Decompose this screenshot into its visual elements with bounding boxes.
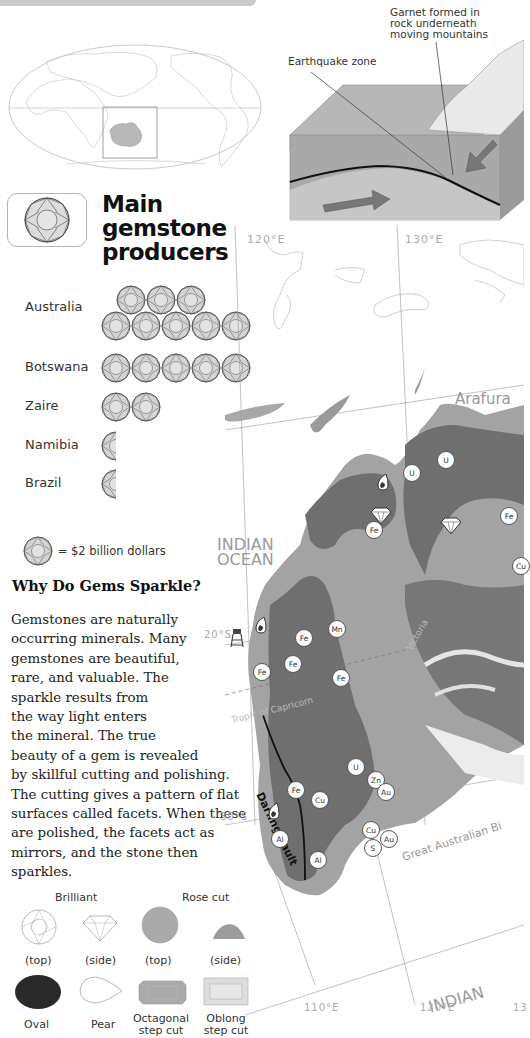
ocean-label-top: INDIAN OCEAN [217,537,274,567]
section-heading: Why Do Gems Sparkle? [12,577,201,594]
mineral-marker-iron: Fe [287,781,305,799]
country-label: Brazil [25,475,61,490]
brilliant-group-label: Brilliant [55,892,97,904]
earthquake-zone-label: Earthquake zone [288,56,376,67]
oil-gas-icon [267,802,281,820]
mineral-marker-uranium: U [347,758,365,776]
country-label: Namibia [25,437,79,452]
mineral-marker-iron: Fe [500,507,518,525]
chart-legend: = $2 billion dollars [22,535,166,567]
brilliant-side-icon [83,916,117,941]
sea-label: Arafura [455,390,511,408]
country-label: Australia [25,299,83,314]
mineral-marker-iron: Fe [284,655,302,673]
oil-gas-icon [376,473,390,491]
oval-label: Oval [24,1019,49,1031]
longitude-label: 130°E [405,233,443,246]
oval-cut-icon [15,975,61,1009]
garnet-label: Garnet formed in rock underneath moving … [390,7,488,40]
mineral-marker-sulfur: S [364,839,382,857]
rose-cut-top-icon [142,907,178,943]
garnet-formation-diagram: Garnet formed in rock underneath moving … [278,0,524,230]
latitude-label: 20°S [204,629,232,640]
gem-icon-box [7,193,87,247]
mineral-marker-copper: Cu [311,791,329,809]
rose-cut-group-label: Rose cut [182,892,229,904]
mineral-marker-aluminium: Al [271,830,289,848]
mineral-marker-iron: Fe [295,629,313,647]
longitude-label: 120°E [420,1002,455,1013]
pear-label: Pear [91,1019,115,1031]
country-label: Zaire [25,398,59,413]
diamond-icon [440,517,462,535]
title-line-2: gemstone [102,216,228,240]
half-gem-icon [100,431,140,463]
mineral-marker-gold: Au [377,783,395,801]
mineral-marker-iron: Fe [253,663,271,681]
ocean-label-line-2: OCEAN [217,552,274,567]
producers-title: Main gemstone producers [102,192,228,264]
mineral-marker-copper: Cu [512,557,530,575]
oil-gas-icon [254,616,268,634]
octagonal-step-cut-icon [139,981,186,1004]
australia-mineral-map: 120°E 130°E INDIAN OCEAN 20°S 30°S Arafu… [225,225,524,1038]
longitude-label: 13 [513,1002,528,1013]
oil-rig-icon [230,628,244,648]
world-locator-map [6,42,264,172]
brilliant-top-icon [22,910,56,944]
longitude-label: 110°E [304,1002,339,1013]
garnet-label-line-3: moving mountains [390,29,488,40]
mineral-marker-iron: Fe [332,669,350,687]
title-line-1: Main [102,192,228,216]
mineral-marker-aluminium: Al [309,851,327,869]
mineral-marker-copper: Cu [362,821,380,839]
mineral-marker-gold: Au [380,830,398,848]
mineral-marker-uranium: U [437,451,455,469]
header-bar [0,0,256,6]
octagonal-label-line-2: step cut [132,1025,190,1037]
octagonal-label: Octagonal step cut [132,1013,190,1037]
mineral-marker-manganese: Mn [328,620,346,638]
pear-cut-icon [80,977,122,1003]
diamond-icon [370,507,392,525]
mineral-marker-uranium: U [403,464,421,482]
gem-unit-icon [22,535,54,567]
half-gem-icon [100,469,140,501]
brilliant-side-label: (side) [85,955,116,967]
legend-text: = $2 billion dollars [58,544,166,558]
rose-top-label: (top) [145,955,172,967]
longitude-label: 120°E [247,233,285,246]
brilliant-gem-icon [8,194,86,246]
title-line-3: producers [102,240,228,264]
latitude-label: 30°S [220,811,248,822]
country-label: Botswana [25,359,89,374]
brilliant-top-label: (top) [25,955,52,967]
